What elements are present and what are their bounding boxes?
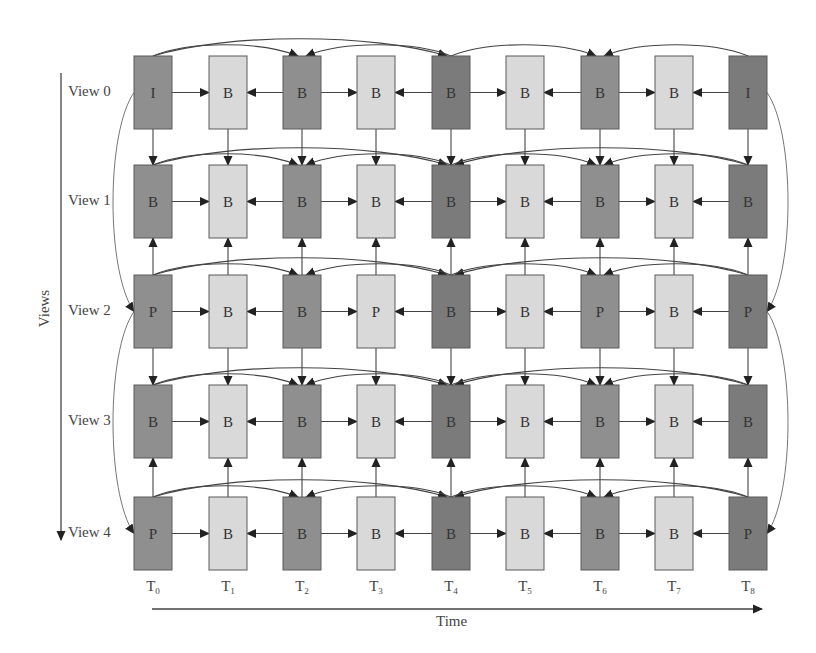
frame-box: P — [134, 275, 172, 348]
hierarchical-b-arc — [153, 39, 447, 56]
frame-type-label: B — [520, 194, 530, 210]
hierarchical-b-arc — [451, 45, 596, 56]
hierarchical-b-arc — [306, 154, 451, 165]
interview-curve-arrow — [767, 93, 788, 312]
frame-type-label: B — [223, 414, 233, 430]
hierarchical-b-arc — [306, 486, 451, 497]
frame-type-label: I — [746, 85, 751, 101]
frame-type-label: B — [371, 414, 381, 430]
frame-type-label: B — [669, 526, 679, 542]
hierarchical-b-arc — [153, 148, 447, 165]
hierarchical-b-arc — [604, 45, 748, 56]
frame-type-label: B — [297, 414, 307, 430]
time-label-index: 8 — [750, 586, 755, 596]
hierarchical-b-arc — [451, 264, 596, 275]
time-label: T5 — [506, 578, 544, 596]
time-label-index: 4 — [453, 586, 458, 596]
time-label-index: 3 — [378, 586, 383, 596]
frame-type-label: B — [669, 194, 679, 210]
frame-type-label: B — [371, 85, 381, 101]
frame-type-label: P — [744, 526, 752, 542]
frame-box: B — [357, 56, 395, 129]
time-axis-title: Time — [436, 613, 467, 630]
frame-type-label: B — [148, 414, 158, 430]
frame-box: B — [581, 385, 619, 458]
hierarchical-b-arc — [306, 45, 451, 56]
frame-box: B — [283, 275, 321, 348]
view-label: View 2 — [68, 302, 111, 319]
frame-box: B — [581, 165, 619, 238]
frame-type-label: B — [520, 414, 530, 430]
time-label-base: T — [295, 578, 304, 594]
frame-box: B — [432, 165, 470, 238]
frame-box: B — [655, 165, 693, 238]
frame-box: P — [729, 275, 767, 348]
time-label-base: T — [667, 578, 676, 594]
frame-type-label: P — [744, 304, 752, 320]
frame-type-label: B — [223, 85, 233, 101]
time-label: T2 — [283, 578, 321, 596]
multiview-prediction-diagram: IBBBBBBBIBBBBBBBBBPBBPBBPBPBBBBBBBBBPBBB… — [0, 0, 816, 653]
frame-type-label: B — [223, 194, 233, 210]
time-label-index: 7 — [676, 586, 681, 596]
time-label: T3 — [357, 578, 395, 596]
frame-box: B — [209, 56, 247, 129]
frame-type-label: B — [446, 85, 456, 101]
frame-type-label: B — [223, 304, 233, 320]
time-label-base: T — [221, 578, 230, 594]
frame-box: B — [432, 385, 470, 458]
frame-type-label: B — [595, 414, 605, 430]
frame-type-label: B — [297, 85, 307, 101]
hierarchical-b-arc — [455, 148, 748, 165]
frame-box: B — [432, 56, 470, 129]
frame-type-label: B — [297, 526, 307, 542]
frame-type-label: B — [297, 304, 307, 320]
frame-type-label: P — [596, 304, 604, 320]
frame-box: B — [655, 275, 693, 348]
hierarchical-b-arc — [153, 480, 447, 497]
hierarchical-b-arc — [455, 258, 748, 275]
frame-box: B — [655, 385, 693, 458]
frame-box: B — [506, 165, 544, 238]
frame-box: B — [357, 385, 395, 458]
frame-type-label: B — [669, 304, 679, 320]
frame-box: B — [283, 165, 321, 238]
frame-type-label: B — [743, 414, 753, 430]
frame-box: B — [655, 56, 693, 129]
hierarchical-b-arc — [153, 258, 447, 275]
hierarchical-b-arc — [451, 486, 596, 497]
frame-box: B — [283, 385, 321, 458]
frame-box: B — [581, 56, 619, 129]
frame-box: P — [729, 497, 767, 570]
hierarchical-b-arc — [153, 368, 447, 385]
hierarchical-b-arc — [451, 154, 596, 165]
interview-curve-arrow — [113, 312, 134, 534]
time-label-index: 0 — [155, 586, 160, 596]
frame-box: B — [729, 385, 767, 458]
frame-type-label: B — [297, 194, 307, 210]
view-label: View 0 — [68, 83, 111, 100]
frame-type-label: I — [151, 85, 156, 101]
frame-type-label: B — [669, 85, 679, 101]
view-label: View 1 — [68, 192, 111, 209]
frame-box: B — [506, 385, 544, 458]
frame-type-label: B — [446, 194, 456, 210]
frame-box: B — [209, 385, 247, 458]
frame-type-label: B — [595, 526, 605, 542]
frame-type-label: B — [446, 304, 456, 320]
frame-box: B — [209, 165, 247, 238]
interview-curve-arrow — [113, 93, 134, 312]
frame-type-label: B — [520, 304, 530, 320]
frame-type-label: P — [149, 526, 157, 542]
frame-box: B — [506, 497, 544, 570]
time-label: T4 — [432, 578, 470, 596]
time-label-index: 6 — [602, 586, 607, 596]
frame-type-label: B — [223, 526, 233, 542]
time-label: T6 — [581, 578, 619, 596]
frame-type-label: B — [446, 526, 456, 542]
frame-box: B — [134, 165, 172, 238]
time-label-base: T — [444, 578, 453, 594]
hierarchical-b-arc — [455, 368, 748, 385]
frame-box: B — [506, 56, 544, 129]
frame-box: I — [134, 56, 172, 129]
